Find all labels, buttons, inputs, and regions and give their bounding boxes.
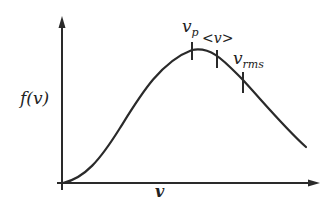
vavg-label: <v> [202,31,233,45]
distribution-curve [63,49,306,183]
x-axis-arrow-icon [308,180,320,187]
x-axis [57,180,320,187]
y-axis-arrow-icon [59,16,66,28]
y-axis [59,16,66,190]
vrms-label-main: v [233,48,243,68]
vp-label: vp [182,18,199,35]
distribution-figure [0,0,334,210]
x-axis-label: v [155,184,164,200]
vp-label-sub: p [192,26,199,39]
vrms-label: vrms [233,50,264,67]
vp-label-main: v [182,16,192,36]
vrms-label-sub: rms [243,58,264,71]
y-axis-label: f(v) [20,90,49,107]
